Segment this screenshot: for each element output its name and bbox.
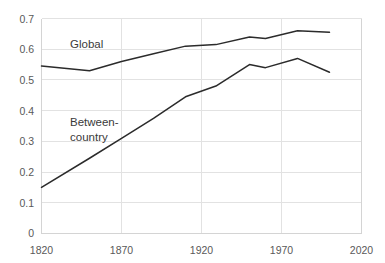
x-tick-label-1920: 1920 [190, 244, 214, 256]
y-tick-label-0.3: 0.3 [19, 135, 34, 147]
y-tick-label-0.6: 0.6 [19, 43, 34, 55]
series-annotations: Global Between- country [70, 38, 119, 143]
global-series-label: Global [70, 38, 103, 50]
series-line-global [42, 31, 330, 71]
x-tick-label-1820: 1820 [30, 244, 54, 256]
y-tick-label-0.4: 0.4 [19, 105, 34, 117]
y-tick-label-0.7: 0.7 [19, 13, 34, 25]
between-country-series-label-line2: country [70, 131, 108, 143]
y-tick-label-0.5: 0.5 [19, 74, 34, 86]
x-tick-label-1870: 1870 [110, 244, 134, 256]
y-axis-tick-labels: 0.7 0.6 0.5 0.4 0.3 0.2 0.1 0 [19, 13, 34, 240]
chart-container: 0.7 0.6 0.5 0.4 0.3 0.2 0.1 0 1820 1870 … [0, 0, 385, 263]
between-country-series-label-line1: Between- [70, 116, 119, 128]
series-lines [42, 31, 330, 188]
y-tick-label-0: 0 [28, 227, 34, 239]
x-tick-label-1970: 1970 [270, 244, 294, 256]
y-tick-label-0.1: 0.1 [19, 197, 34, 209]
y-tick-label-0.2: 0.2 [19, 166, 34, 178]
line-chart: 0.7 0.6 0.5 0.4 0.3 0.2 0.1 0 1820 1870 … [0, 0, 385, 263]
x-tick-label-2020: 2020 [350, 244, 374, 256]
x-axis-tick-labels: 1820 1870 1920 1970 2020 [30, 244, 374, 256]
